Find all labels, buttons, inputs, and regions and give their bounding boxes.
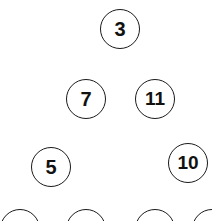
node-11: 11 bbox=[135, 79, 175, 119]
node-7: 7 bbox=[66, 79, 106, 119]
node-bottom-4: 1 bbox=[192, 209, 212, 221]
node-10: 10 bbox=[168, 143, 208, 183]
node-5: 5 bbox=[31, 147, 71, 187]
node-3: 3 bbox=[100, 9, 140, 49]
node-bottom-1: 12 bbox=[0, 209, 40, 221]
node-bottom-2: 4 bbox=[66, 209, 106, 221]
node-bottom-3: 12 bbox=[135, 209, 175, 221]
